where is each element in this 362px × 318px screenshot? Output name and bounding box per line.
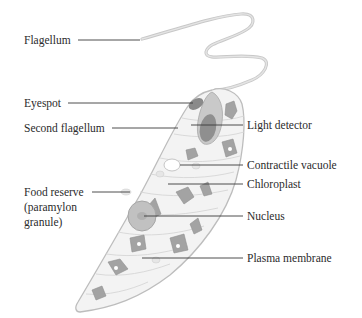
contractile-vacuole-shape [164, 159, 180, 171]
flagellum-shape [142, 14, 267, 90]
label-light-detector: Light detector [247, 118, 312, 132]
label-nucleus: Nucleus [247, 209, 285, 223]
euglena-diagram: Flagellum Eyespot Second flagellum Light… [0, 0, 362, 318]
label-contractile-vacuole: Contractile vacuole [247, 158, 337, 172]
label-plasma-membrane: Plasma membrane [247, 251, 332, 265]
label-eyespot: Eyespot [24, 96, 61, 110]
label-food-reserve: Food reserve (paramylon granule) [24, 185, 104, 230]
label-chloroplast: Chloroplast [247, 177, 301, 191]
label-second-flagellum: Second flagellum [24, 121, 105, 135]
label-flagellum: Flagellum [24, 33, 71, 47]
